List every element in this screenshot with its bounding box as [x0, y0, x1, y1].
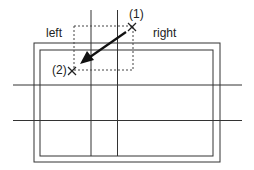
outer-frame [34, 43, 220, 162]
label-point-1: (1) [129, 8, 144, 20]
window-selection-diagram: left right (1) (2) [0, 0, 254, 170]
cross-icon-point-2 [68, 67, 76, 75]
label-right: right [153, 27, 176, 39]
diagram-canvas [0, 0, 254, 170]
label-left: left [46, 27, 62, 39]
label-point-2: (2) [52, 64, 67, 76]
cross-icon-point-1 [128, 23, 136, 31]
drag-arrow-icon [80, 32, 126, 64]
